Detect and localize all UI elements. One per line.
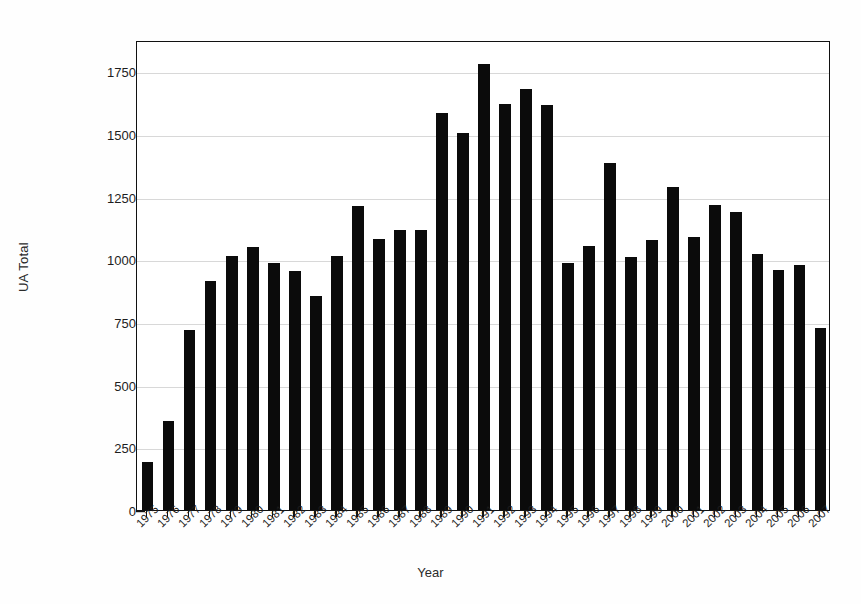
bar: [352, 206, 364, 510]
y-tick-label: 750: [84, 316, 136, 331]
y-tick-label: 500: [84, 378, 136, 393]
bar: [688, 237, 700, 510]
bar: [541, 105, 553, 510]
y-tick-label: 0: [84, 504, 136, 519]
bar: [331, 256, 343, 510]
x-axis-tick-labels: 1975197619771978197919801981198219831984…: [136, 519, 830, 565]
bar: [289, 271, 301, 510]
bar: [205, 281, 217, 510]
bar: [247, 247, 259, 510]
bar: [709, 205, 721, 510]
x-axis-title: Year: [0, 565, 861, 580]
bar: [394, 230, 406, 510]
bar: [310, 296, 322, 510]
bar: [478, 64, 490, 510]
y-tick-label: 1500: [84, 128, 136, 143]
bar-chart: UA Total 02505007501000125015001750 1975…: [0, 0, 861, 604]
bar: [415, 230, 427, 510]
bar: [373, 239, 385, 510]
bar: [436, 113, 448, 510]
y-tick-label: 1000: [84, 253, 136, 268]
y-axis-ticks: 02505007501000125015001750: [62, 41, 136, 511]
y-tick-label: 1250: [84, 190, 136, 205]
y-axis-title: UA Total: [16, 152, 31, 292]
bar: [625, 257, 637, 510]
y-tick-label: 250: [84, 441, 136, 456]
bar: [562, 263, 574, 510]
bar: [499, 104, 511, 510]
bar: [520, 89, 532, 510]
bar: [773, 270, 785, 510]
bar: [457, 133, 469, 510]
y-tick-label: 1750: [84, 65, 136, 80]
bar: [268, 263, 280, 510]
bar: [794, 265, 806, 510]
bar: [184, 330, 196, 510]
bar: [646, 240, 658, 510]
bar: [752, 254, 764, 510]
bar: [226, 256, 238, 510]
bar: [604, 163, 616, 510]
bar: [163, 421, 175, 510]
bar: [730, 212, 742, 510]
bar: [667, 187, 679, 510]
bar: [583, 246, 595, 510]
bar: [815, 328, 827, 510]
plot-area: [136, 41, 830, 511]
